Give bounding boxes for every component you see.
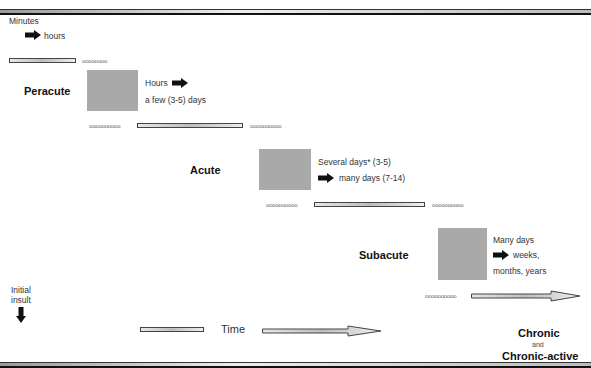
start-label-minutes: Minutes [9,17,39,26]
transition-dots-5: oooooooooo [432,202,463,208]
stage-acute-duration-1: Several days* (3-5) [318,158,391,167]
transition-dots-4: oooooooooo [266,202,297,208]
stage-peracute-label: Peracute [24,85,70,97]
transition-dots-2: oooooooooo [89,123,120,129]
stage-acute-duration-2: many days (7-14) [339,174,405,183]
timeline-bar-start [9,58,76,63]
timeline-arrow-chronic [471,290,581,302]
stage-subacute-duration-3: months, years [493,267,546,276]
bottom-border-rule [0,362,591,368]
stage-subacute-duration-1: Many days [493,236,534,245]
time-axis-arrow [262,325,382,337]
stage-acute-label: Acute [190,164,221,176]
timeline-bar-acute [314,202,425,207]
top-border-rule [0,9,591,15]
stage-subacute-label: Subacute [359,249,409,261]
stage-acute-box [259,149,311,190]
stage-peracute-duration-2: a few (3-5) days [145,96,206,105]
down-arrow-icon [16,307,26,323]
right-arrow-icon [493,250,509,260]
stage-chronic-active-label: Chronic-active [502,350,578,362]
right-arrow-icon [172,78,188,88]
timeline-bar-peracute [137,123,243,128]
stage-peracute-box [87,70,138,111]
stage-peracute-duration-1: Hours [145,79,168,88]
time-axis-bar-left [140,327,204,332]
transition-dots-1: oooooooo [82,58,107,64]
stage-subacute-duration-2: weeks, [513,251,539,260]
right-arrow-icon [25,30,41,40]
time-axis-label: Time [221,323,245,335]
right-arrow-icon [318,173,334,183]
initial-insult-label-2: insult [11,296,31,305]
stage-chronic-label: Chronic [518,327,560,339]
initial-insult-label-1: Initial [11,286,31,295]
stage-chronic-and-label: and [532,341,544,348]
stage-subacute-box [438,228,487,280]
transition-dots-6: oooooooooo [425,293,456,299]
start-label-hours: hours [44,32,65,41]
transition-dots-3: oooooooooo [250,123,281,129]
